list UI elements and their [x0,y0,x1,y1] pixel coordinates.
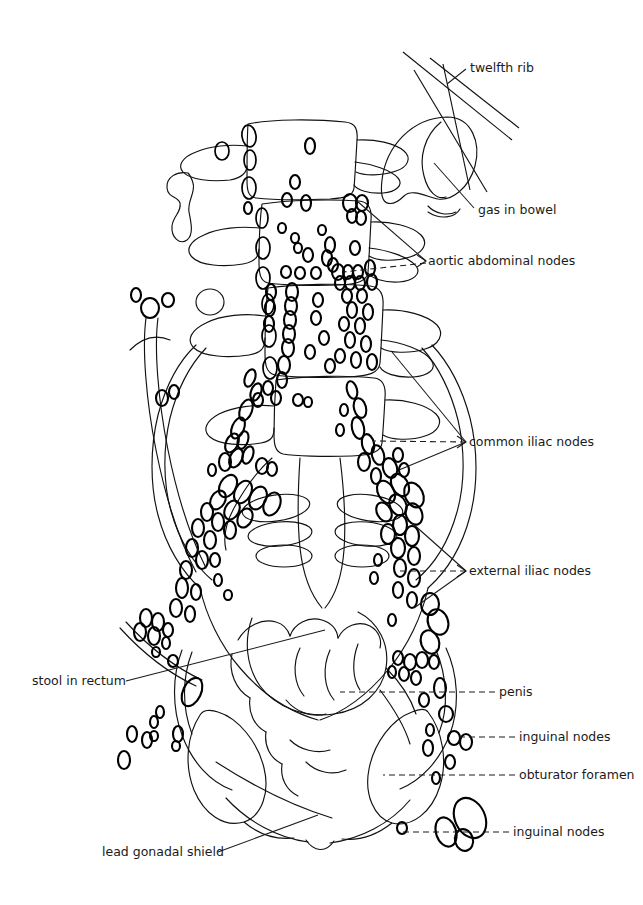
leader-line-common-iliac-nodes [373,441,466,442]
leader-line-common-iliac-nodes [399,442,466,470]
annotation-label-inguinal-nodes-upper: inguinal nodes [519,729,610,744]
leader-line-lead-gonadal-shield [218,815,318,852]
annotation-label-lead-gonadal-shield: lead gonadal shield [102,844,224,859]
lymphangiogram-figure: twelfth ribgas in bowelaortic abdominal … [0,0,643,905]
annotation-label-twelfth-rib: twelfth rib [470,60,534,75]
lumbar-spine-outline [167,120,441,456]
annotation-label-gas-in-bowel: gas in bowel [478,202,556,217]
leader-line-gas-in-bowel [434,163,474,208]
scattered-lymph-nodes [131,288,396,626]
common-iliac-node-chain-right [336,380,409,484]
leader-line-common-iliac-nodes [392,352,466,442]
inguinal-node-chain-right [388,651,492,853]
annotation-label-external-iliac-nodes: external iliac nodes [469,563,591,578]
common-iliac-node-chain-left [208,368,277,476]
annotation-label-stool-in-rectum: stool in rectum [32,673,126,688]
label-texts: twelfth ribgas in bowelaortic abdominal … [32,60,635,859]
paraaortic-node-chain-right [293,289,377,407]
annotation-label-penis: penis [499,684,533,699]
external-iliac-node-chain-right [370,471,452,657]
bowel-gas-outline [381,117,476,217]
annotation-label-common-iliac-nodes: common iliac nodes [469,434,594,449]
leader-line-aortic-abdominal-nodes [343,263,426,272]
inguinal-node-chain-left [118,609,206,769]
leader-line-twelfth-rib [447,69,466,84]
leader-lines [126,69,515,852]
annotation-label-inguinal-nodes-lower: inguinal nodes [513,824,604,839]
figure-canvas: twelfth ribgas in bowelaortic abdominal … [0,0,643,905]
annotation-label-aortic-abdominal-nodes: aortic abdominal nodes [428,253,575,268]
annotation-label-obturator-foramen: obturator foramen [519,767,635,782]
leader-line-external-iliac-nodes [412,523,466,571]
